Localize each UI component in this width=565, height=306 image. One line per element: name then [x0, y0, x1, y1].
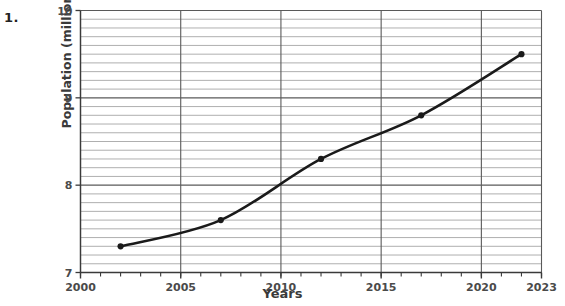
data-point-marker [318, 156, 324, 162]
chart-figure: 1. Population (millions) 789102000200520… [0, 0, 565, 306]
svg-text:10: 10 [57, 5, 73, 18]
data-point-marker [117, 243, 123, 249]
svg-text:8: 8 [65, 179, 73, 192]
x-axis-title: Years [0, 286, 565, 301]
data-point-marker [518, 51, 524, 57]
svg-text:9: 9 [65, 92, 73, 105]
data-point-marker [418, 112, 424, 118]
data-point-marker [218, 217, 224, 223]
chart-plot-area: 78910200020052010201520202023 [0, 0, 565, 306]
svg-text:7: 7 [65, 267, 73, 280]
